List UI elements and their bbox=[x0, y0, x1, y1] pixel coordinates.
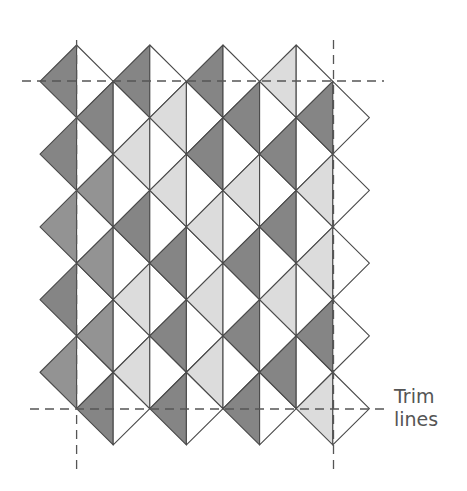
trim-label-line2: lines bbox=[394, 408, 438, 431]
triangle-right-white bbox=[333, 300, 370, 373]
triangle-left-medium bbox=[40, 190, 77, 263]
triangle-right-white bbox=[333, 154, 370, 227]
triangle-left-dark bbox=[40, 263, 77, 336]
triangle-tiles bbox=[40, 45, 369, 445]
triangle-left-dark bbox=[40, 118, 77, 191]
triangle-right-white bbox=[333, 81, 370, 154]
triangle-right-white bbox=[333, 227, 370, 300]
trim-label-line1: Trim bbox=[394, 385, 434, 408]
triangle-left-medium bbox=[40, 336, 77, 409]
